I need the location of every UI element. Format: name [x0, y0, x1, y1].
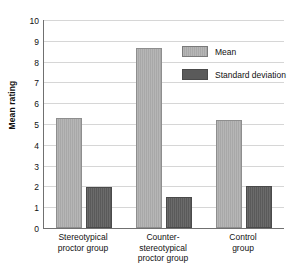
- bar-chart: Mean rating 012345678910 Stereotypical p…: [0, 0, 294, 275]
- bar-mean-group-1: [56, 118, 82, 228]
- gridline-9: 9: [44, 41, 284, 42]
- y-tick-label-7: 7: [34, 78, 39, 88]
- bar-standard-deviation-group-2: [166, 197, 192, 228]
- x-axis-category-label-2-line-3: proctor group: [118, 253, 208, 264]
- bar-standard-deviation-group-3: [246, 186, 272, 228]
- y-tick-label-5: 5: [34, 120, 39, 130]
- bar-mean-group-3: [216, 120, 242, 228]
- x-axis-category-label-3: Control group: [198, 232, 288, 253]
- x-axis-category-label-2-line-2: stereotypical: [118, 243, 208, 254]
- x-axis-category-label-1: Stereotypical proctor group: [38, 232, 128, 253]
- x-axis-category-label-3-line-2: group: [198, 243, 288, 254]
- y-tick-label-1: 1: [34, 203, 39, 213]
- legend: Mean Standard deviation: [182, 46, 286, 92]
- y-tick-label-3: 3: [34, 162, 39, 172]
- x-axis-category-label-1-line-2: proctor group: [38, 243, 128, 254]
- legend-swatch-standard-deviation: [182, 69, 208, 80]
- gridline-10: 10: [44, 20, 284, 21]
- legend-item-standard-deviation: Standard deviation: [182, 69, 286, 80]
- y-tick-label-4: 4: [34, 141, 39, 151]
- legend-swatch-mean: [182, 46, 208, 57]
- y-tick-label-8: 8: [34, 58, 39, 68]
- gridline-6: 6: [44, 103, 284, 104]
- x-axis-category-label-2-line-1: Counter-: [118, 232, 208, 243]
- legend-label-mean: Mean: [215, 47, 236, 57]
- gridline-0: 0: [44, 228, 284, 229]
- legend-label-standard-deviation: Standard deviation: [215, 70, 286, 80]
- x-axis-category-label-1-line-1: Stereotypical: [38, 232, 128, 243]
- legend-item-mean: Mean: [182, 46, 286, 57]
- y-axis-title: Mean rating: [7, 65, 17, 145]
- y-tick-label-6: 6: [34, 99, 39, 109]
- bar-mean-group-2: [136, 48, 162, 228]
- y-tick-label-10: 10: [30, 16, 39, 26]
- x-axis-category-label-3-line-1: Control: [198, 232, 288, 243]
- x-axis-category-label-2: Counter- stereotypical proctor group: [118, 232, 208, 264]
- y-tick-label-9: 9: [34, 37, 39, 47]
- y-tick-label-2: 2: [34, 182, 39, 192]
- bar-standard-deviation-group-1: [86, 187, 112, 228]
